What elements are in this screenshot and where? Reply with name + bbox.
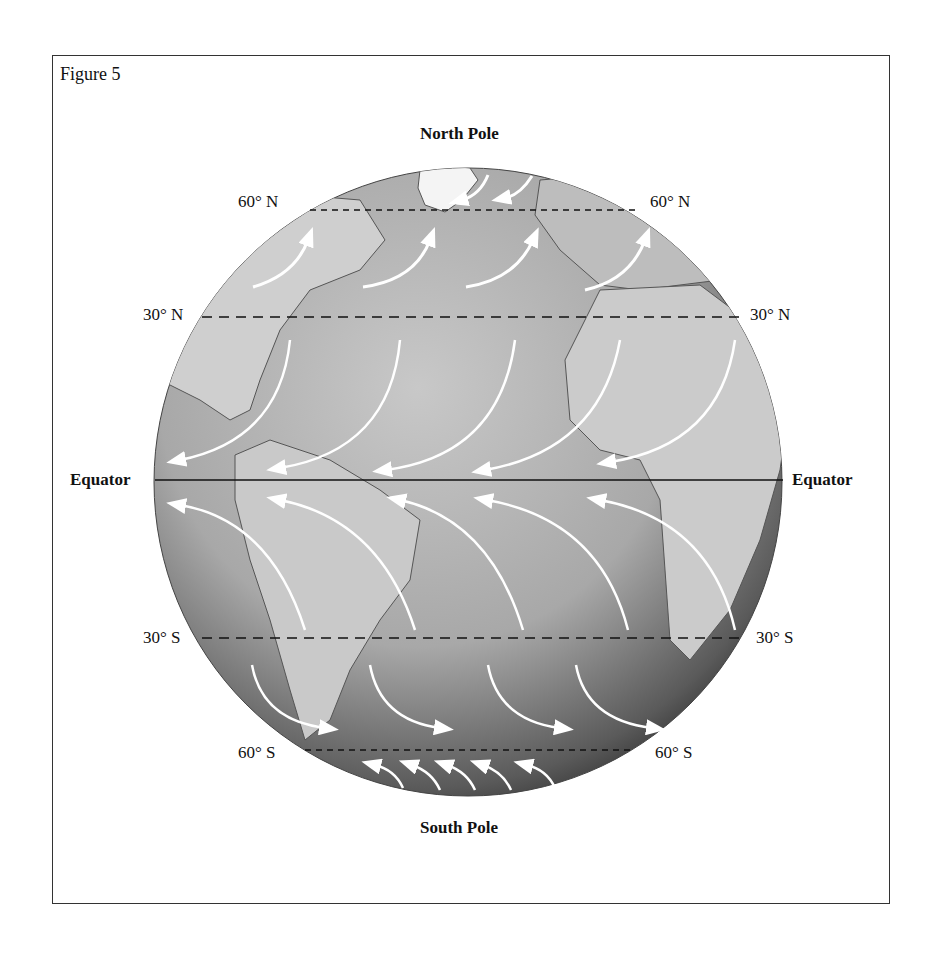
lat-30s-left-label: 30° S (143, 628, 181, 648)
lat-60s-right-label: 60° S (655, 743, 693, 763)
south-pole-label: South Pole (420, 818, 498, 838)
north-pole-label: North Pole (420, 124, 499, 144)
lat-60n-right-label: 60° N (650, 192, 690, 212)
lat-30n-right-label: 30° N (750, 305, 790, 325)
equator-right-label: Equator (792, 470, 852, 490)
lat-30n-left-label: 30° N (143, 305, 183, 325)
lat-30s-right-label: 30° S (756, 628, 794, 648)
lat-60s-left-label: 60° S (238, 743, 276, 763)
figure-title: Figure 5 (60, 64, 121, 85)
lat-60n-left-label: 60° N (238, 192, 278, 212)
equator-left-label: Equator (70, 470, 130, 490)
